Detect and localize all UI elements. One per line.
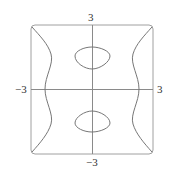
- y-min-label: −3: [86, 157, 98, 168]
- x-min-label: −3: [15, 84, 27, 95]
- x-max-label: 3: [157, 84, 163, 95]
- y-max-label: 3: [88, 12, 94, 23]
